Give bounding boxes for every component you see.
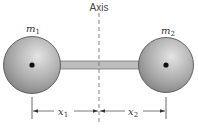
mass-1-label: m1	[26, 23, 40, 36]
center-of-mass-2-dot	[163, 62, 168, 67]
distance-x1-dimension: x1	[33, 106, 98, 119]
x2-label: x2	[128, 106, 138, 119]
center-of-mass-1-dot	[29, 62, 34, 67]
arrowhead-icon	[160, 109, 165, 113]
mass-2-label: m2	[161, 25, 175, 38]
mass-2-sphere	[139, 38, 194, 93]
x1-label: x1	[58, 106, 68, 119]
diagram-canvas: Axis m1 m2 x1 x2	[0, 0, 198, 130]
mass-1-sphere	[4, 37, 61, 94]
arrowhead-icon	[93, 109, 98, 113]
axis-label: Axis	[90, 2, 109, 13]
arrowhead-icon	[33, 109, 38, 113]
distance-x2-dimension: x2	[100, 106, 165, 119]
arrowhead-icon	[100, 109, 105, 113]
dumbbell-diagram: Axis m1 m2 x1 x2	[0, 0, 198, 130]
connecting-rod	[58, 61, 142, 69]
